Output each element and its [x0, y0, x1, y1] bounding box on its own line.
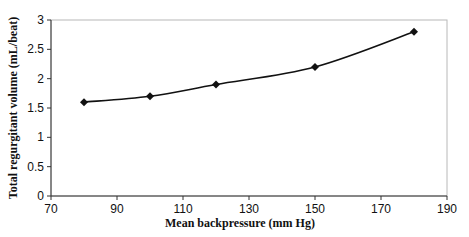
diamond-marker — [146, 92, 154, 100]
plot-frame — [51, 20, 447, 196]
chart: 00.511.522.53 7090110130150170190 Mean b… — [0, 0, 469, 237]
diamond-marker — [80, 98, 88, 106]
x-tick-label: 130 — [239, 202, 259, 216]
data-markers — [80, 28, 418, 106]
x-axis-label: Mean backpressure (mm Hg) — [165, 216, 315, 230]
x-tick-label: 150 — [305, 202, 325, 216]
x-tick-label: 190 — [437, 202, 457, 216]
y-tick-label: 2 — [37, 72, 44, 86]
y-tick-label: 0.5 — [27, 160, 44, 174]
x-tick-label: 90 — [110, 202, 124, 216]
y-axis-label: Total regurgitant volume (mL/beat) — [6, 17, 20, 199]
y-tick-label: 2.5 — [27, 42, 44, 56]
diamond-marker — [311, 63, 319, 71]
x-tick-label: 170 — [371, 202, 391, 216]
diamond-marker — [212, 81, 220, 89]
data-line — [84, 32, 414, 102]
y-tick-label: 3 — [37, 13, 44, 27]
y-tick-label: 1.5 — [27, 101, 44, 115]
x-tick-label: 110 — [173, 202, 192, 216]
diamond-marker — [410, 28, 418, 36]
y-tick-label: 1 — [37, 130, 44, 144]
y-tick-label: 0 — [37, 189, 44, 203]
x-ticks: 7090110130150170190 — [44, 196, 457, 216]
y-ticks: 00.511.522.53 — [27, 13, 51, 203]
x-tick-label: 70 — [44, 202, 58, 216]
